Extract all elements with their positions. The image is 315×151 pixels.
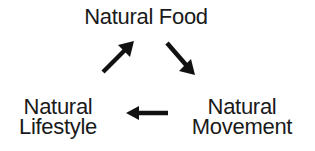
arrows-layer	[0, 0, 315, 151]
arrow-down-right-icon	[167, 43, 195, 75]
arrow-left-icon	[126, 106, 168, 120]
arrow-up-right-icon	[103, 41, 134, 72]
cycle-diagram: Natural Food Natural Lifestyle Natural M…	[0, 0, 315, 151]
